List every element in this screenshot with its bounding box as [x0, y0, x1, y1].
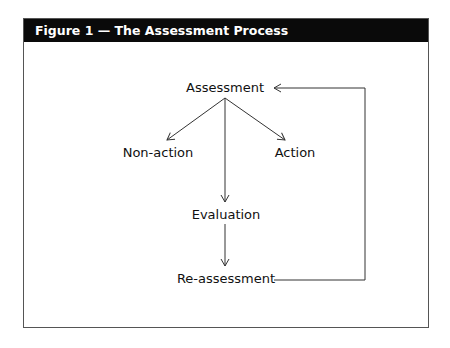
node-action: Action: [275, 145, 316, 160]
node-non-action: Non-action: [123, 145, 194, 160]
arrow-assessment-to-action: [225, 98, 285, 140]
arrow-reassessment-to-assessment: [274, 88, 365, 280]
node-assessment: Assessment: [186, 80, 264, 95]
node-evaluation: Evaluation: [192, 207, 261, 222]
arrow-assessment-to-nonaction: [167, 98, 225, 140]
diagram-connectors: [0, 0, 450, 348]
node-reassessment: Re-assessment: [177, 271, 275, 286]
